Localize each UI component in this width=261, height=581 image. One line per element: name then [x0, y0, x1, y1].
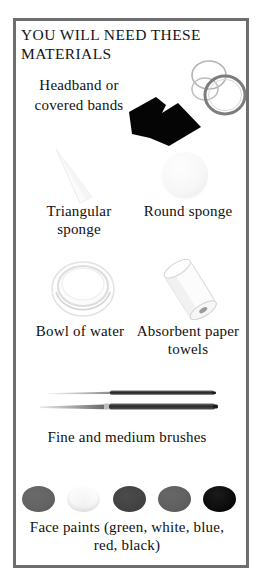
paint-dot-green: [22, 486, 55, 512]
headband-icon: [126, 94, 204, 146]
paint-dot-blue: [113, 486, 146, 512]
headband-label: Headband or covered bands: [16, 76, 142, 115]
paint-brushes-icon: [38, 386, 224, 420]
paper-towels-label: Absorbent paper towels: [136, 323, 240, 358]
paint-dot-white: [67, 486, 100, 512]
triangular-sponge-label: Triangular sponge: [24, 203, 134, 238]
bowl-of-water-label: Bowl of water: [28, 323, 132, 341]
bowl-of-water-icon: [48, 258, 118, 320]
triangular-sponge-icon: [52, 147, 114, 207]
round-sponge-icon: [162, 152, 208, 198]
paint-dot-black: [203, 486, 236, 512]
face-paints-label: Face paints (green, white, blue, red, bl…: [22, 519, 232, 554]
round-sponge-label: Round sponge: [140, 203, 236, 221]
paint-dot-red: [158, 486, 191, 512]
brushes-label: Fine and medium brushes: [22, 429, 232, 447]
paper-towel-roll-icon: [156, 258, 224, 320]
materials-page: YOU WILL NEED THESE MATERIALS Headband o…: [0, 0, 261, 581]
